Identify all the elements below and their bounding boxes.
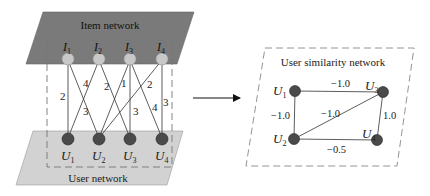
user-node-u3 xyxy=(124,133,136,145)
sim-weight-u1-u2: −1.0 xyxy=(271,110,290,121)
weight-i2-u3: 2 xyxy=(104,80,110,92)
sim-node-u1 xyxy=(290,86,301,97)
sim-label-u2: U2 xyxy=(273,131,286,148)
weight-i2-u1: 4 xyxy=(83,77,89,89)
edge-i3-u4 xyxy=(130,60,162,138)
weight-i3-u3: 3 xyxy=(133,105,139,117)
sim-edge-u1-u2 xyxy=(294,91,295,139)
sim-label-u4: U4 xyxy=(362,126,375,143)
item-network-label: Item network xyxy=(81,19,140,31)
user-node-u4 xyxy=(156,133,168,145)
bipartite-edges xyxy=(68,60,162,138)
diagram-canvas: User network Item network 2 3 4 2 1 3 4 … xyxy=(0,0,430,196)
weight-i4-u4: 3 xyxy=(163,96,169,108)
sim-node-u3 xyxy=(378,87,389,98)
sim-label-u3: U3 xyxy=(365,78,378,95)
weight-i3-u2: 1 xyxy=(121,77,127,89)
sim-weight-u3-u4: 1.0 xyxy=(383,110,396,121)
weight-i4-u2: 2 xyxy=(147,78,153,90)
weight-i3-u4: 4 xyxy=(152,101,158,113)
edge-i4-u2 xyxy=(99,60,162,138)
user-network-label: User network xyxy=(68,172,128,184)
sim-weight-u2-u3: −1.0 xyxy=(321,108,340,119)
similarity-network-title: User similarity network xyxy=(281,56,386,68)
sim-node-u2 xyxy=(289,134,300,145)
sim-weight-u1-u3: −1.0 xyxy=(331,78,350,89)
weight-i1-u2: 3 xyxy=(83,105,89,117)
user-node-u1 xyxy=(62,133,74,145)
user-node-u2 xyxy=(93,133,105,145)
bipartite-edge-weights: 2 3 4 2 1 3 4 2 3 xyxy=(60,77,169,117)
weight-i1-u1: 2 xyxy=(60,90,66,102)
sim-label-u1: U1 xyxy=(273,83,286,100)
sim-weight-u2-u4: −0.5 xyxy=(327,144,346,155)
